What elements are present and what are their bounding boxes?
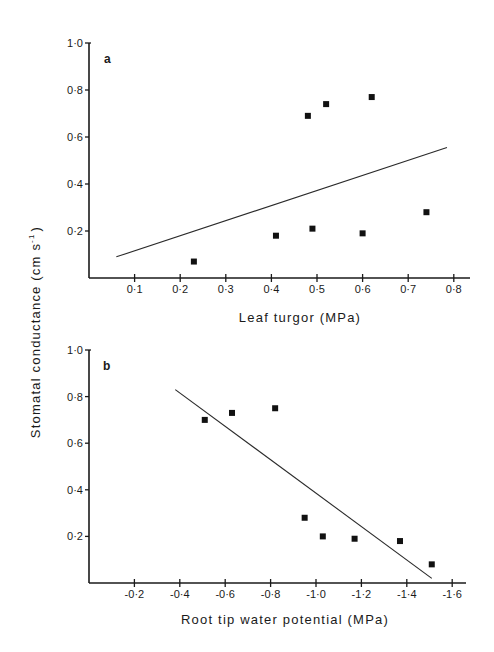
figure: Stomatal conductance (cm s-1) 0·20·40·60… xyxy=(0,0,494,652)
y-tick-label: 0·2 xyxy=(67,225,83,237)
y-tick-label: 0·4 xyxy=(67,484,83,496)
x-tick-label: -1·4 xyxy=(397,588,417,600)
y-tick-label: 0·6 xyxy=(67,437,83,449)
data-point-square-marker xyxy=(397,538,403,544)
x-tick-label: 0·2 xyxy=(172,283,188,295)
regression-line xyxy=(116,148,447,257)
data-point-square-marker xyxy=(369,94,375,100)
y-tick-label: 1·0 xyxy=(67,37,83,49)
x-tick-label: -1·2 xyxy=(352,588,372,600)
y-tick-label: 0·2 xyxy=(67,530,83,542)
x-axis-title: Root tip water potential (MPa) xyxy=(181,612,389,627)
x-tick-label: 0·6 xyxy=(355,283,371,295)
panel-b: 0·20·40·60·81·0-0·2-0·4-0·6-0·8-1·0-1·2-… xyxy=(67,344,466,627)
data-point-square-marker xyxy=(272,405,278,411)
y-tick-label: 0·6 xyxy=(67,131,83,143)
x-tick-label: 0·4 xyxy=(263,283,279,295)
x-tick-label: -0·8 xyxy=(261,588,281,600)
data-point-square-marker xyxy=(191,259,197,265)
data-point-square-marker xyxy=(360,230,366,236)
panel-letter: b xyxy=(103,359,110,373)
x-tick-label: 0·8 xyxy=(446,283,462,295)
data-point-square-marker xyxy=(309,226,315,232)
x-tick-label: -0·6 xyxy=(215,588,235,600)
data-point-square-marker xyxy=(423,209,429,215)
y-axis-title: Stomatal conductance (cm s-1) xyxy=(27,226,43,438)
y-tick-label: 0·4 xyxy=(67,178,83,190)
data-point-square-marker xyxy=(429,561,435,567)
panel-a: 0·20·40·60·81·00·10·20·30·40·50·60·70·8a… xyxy=(67,37,470,325)
y-tick-label: 0·8 xyxy=(67,84,83,96)
x-tick-label: 0·1 xyxy=(127,283,143,295)
data-point-square-marker xyxy=(320,533,326,539)
panel-letter: a xyxy=(104,52,111,66)
svg-text:Stomatal conductance (cm s-1): Stomatal conductance (cm s-1) xyxy=(27,226,43,438)
data-point-square-marker xyxy=(302,515,308,521)
x-tick-label: 0·7 xyxy=(400,283,416,295)
x-tick-label: 0·5 xyxy=(309,283,325,295)
data-point-square-marker xyxy=(229,410,235,416)
y-tick-label: 1·0 xyxy=(67,344,83,356)
x-tick-label: -0·4 xyxy=(170,588,190,600)
x-tick-label: -0·2 xyxy=(125,588,145,600)
regression-line xyxy=(175,390,432,579)
y-axis-title-close: ) xyxy=(28,226,43,232)
data-point-square-marker xyxy=(202,417,208,423)
y-axis-title-main: Stomatal conductance (cm s xyxy=(28,243,43,438)
y-tick-label: 0·8 xyxy=(67,391,83,403)
x-tick-label: -1·6 xyxy=(442,588,462,600)
data-point-square-marker xyxy=(323,101,329,107)
data-point-square-marker xyxy=(305,113,311,119)
x-axis-title: Leaf turgor (MPa) xyxy=(239,310,361,325)
x-tick-label: 0·3 xyxy=(218,283,234,295)
data-point-square-marker xyxy=(352,536,358,542)
data-point-square-marker xyxy=(273,233,279,239)
y-axis-title-superscript: -1 xyxy=(27,233,36,243)
x-tick-label: -1·0 xyxy=(306,588,326,600)
